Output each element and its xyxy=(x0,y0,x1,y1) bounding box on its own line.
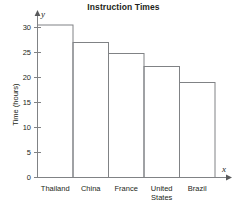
y-axis-arrow-icon xyxy=(35,10,41,16)
x-label-united-states-line2: States xyxy=(151,193,173,202)
x-axis-category-labels: Thailand China France United States Braz… xyxy=(41,184,207,202)
x-label-france: France xyxy=(115,184,138,193)
bar-brazil xyxy=(180,83,216,178)
y-tick-label-20: 20 xyxy=(23,73,31,82)
x-label-thailand: Thailand xyxy=(41,184,70,193)
bar-china xyxy=(73,43,109,178)
x-label-united-states-line1: United xyxy=(151,184,173,193)
x-label-brazil: Brazil xyxy=(188,184,207,193)
y-tick-label-25: 25 xyxy=(23,48,31,57)
bar-united-states xyxy=(144,67,180,178)
y-tick-label-5: 5 xyxy=(27,148,31,157)
x-axis-arrow-icon xyxy=(226,175,232,181)
bar-france xyxy=(109,54,145,178)
y-tick-label-0: 0 xyxy=(27,173,31,182)
bar-thailand xyxy=(38,25,74,178)
bar-series xyxy=(38,25,216,178)
y-axis-tick-labels: 0 5 10 15 20 25 30 xyxy=(23,23,31,182)
y-tick-label-10: 10 xyxy=(23,123,31,132)
chart-container: Instruction Times Time (hours) y x 0 5 1… xyxy=(0,0,247,214)
chart-plot-area: y x 0 5 10 15 20 25 30 xyxy=(0,0,247,214)
y-tick-label-15: 15 xyxy=(23,98,31,107)
x-label-china: China xyxy=(81,184,101,193)
y-tick-label-30: 30 xyxy=(23,23,31,32)
x-axis-variable-label: x xyxy=(221,164,226,174)
y-axis-variable-label: y xyxy=(40,9,45,19)
